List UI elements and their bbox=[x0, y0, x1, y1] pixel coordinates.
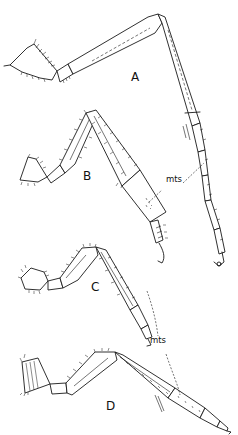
annotation-mts-lower: mts bbox=[150, 336, 166, 345]
panel-label-a: A bbox=[131, 71, 139, 83]
leg-illustration bbox=[0, 0, 238, 435]
annotation-mts-upper: mts bbox=[166, 175, 182, 184]
panel-label-b: B bbox=[83, 170, 91, 182]
panel-label-d: D bbox=[106, 400, 115, 412]
panel-label-c: C bbox=[91, 281, 99, 293]
leg-d-drawing bbox=[20, 348, 231, 434]
leg-c-drawing bbox=[18, 243, 152, 346]
leg-b-drawing bbox=[20, 110, 168, 263]
